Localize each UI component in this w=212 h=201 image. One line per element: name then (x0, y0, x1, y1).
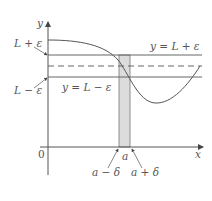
label-a-minus-delta: a − δ (92, 166, 120, 178)
label-a-plus-delta: a + δ (131, 166, 159, 178)
x-axis-label: x (195, 148, 201, 160)
label-l-plus-eps: L + ε (13, 37, 42, 49)
label-l-minus-eps: L − ε (13, 84, 42, 96)
origin-label: 0 (38, 148, 45, 160)
label-a: a (122, 150, 128, 162)
y-axis-label: y (36, 17, 44, 29)
label-upper-line: y = L + ε (149, 40, 200, 52)
delta-band (119, 55, 130, 147)
label-lower-line: y = L − ε (61, 81, 112, 93)
epsilon-delta-diagram: y x 0 L + ε L − ε y = L + ε y = L − ε a … (0, 0, 212, 201)
